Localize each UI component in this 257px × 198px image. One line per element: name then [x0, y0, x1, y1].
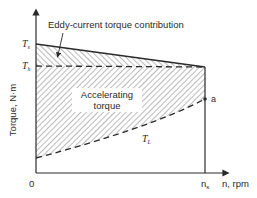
- th-tick-label: Th: [22, 60, 31, 72]
- accelerating-label-2: torque: [94, 100, 121, 111]
- tl-label: TL: [142, 133, 152, 145]
- torque-speed-diagram: Eddy-current torque contribution Acceler…: [0, 0, 257, 198]
- ts-tick-label: Ts: [22, 38, 31, 50]
- y-axis-label: Torque, N·m: [7, 84, 18, 136]
- origin-label: 0: [29, 178, 34, 189]
- x-axis-label: n, rpm: [222, 178, 249, 189]
- eddy-label: Eddy-current torque contribution: [48, 19, 184, 30]
- accelerating-label-1: Accelerating: [81, 89, 133, 100]
- point-a: [203, 97, 207, 101]
- ns-tick-label: ns: [201, 178, 209, 190]
- point-a-label: a: [211, 94, 216, 104]
